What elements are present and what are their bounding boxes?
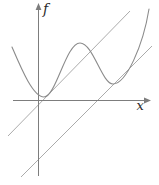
x-axis-arrow-icon [144, 98, 151, 104]
plot-canvas: f x [0, 0, 159, 185]
function-plot-figure: f x [0, 0, 159, 185]
y-axis-arrow-icon [36, 3, 42, 10]
lower-diagonal-line [21, 46, 152, 177]
x-axis-label: x [137, 98, 145, 113]
y-axis-label: f [42, 1, 51, 17]
function-curve [12, 9, 149, 97]
upper-diagonal-line [8, 11, 130, 136]
